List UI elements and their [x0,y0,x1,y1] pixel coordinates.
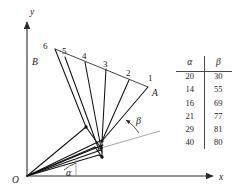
figure-container: x y O A B 1 2 3 4 5 6 α β α β 20 30 [0,0,241,194]
upper-ray-5 [65,57,99,150]
cell-beta: 30 [204,70,232,83]
cell-beta: 81 [204,123,232,136]
table-header-row: α β [176,56,232,70]
ray-label-6: 6 [43,41,48,51]
table-row: 21 77 [176,110,232,123]
cell-beta: 80 [204,136,232,149]
point-label-A: A [151,88,158,98]
origin-ray-3 [27,150,101,176]
cell-beta: 77 [204,110,232,123]
node-dot-apex [100,139,103,142]
table-row: 14 55 [176,83,232,96]
node-dot-upper [84,125,87,128]
cell-alpha: 21 [176,110,204,123]
upper-ray-group [55,49,148,150]
angle-guide-group [64,120,160,176]
upper-ray-1 [102,87,148,141]
origin-ray-6 [27,147,95,176]
table-row: 16 69 [176,97,232,110]
ray-label-5: 5 [62,46,67,56]
cell-alpha: 40 [176,136,204,149]
point-label-B: B [32,57,38,67]
cell-alpha: 29 [176,123,204,136]
table-row: 40 80 [176,136,232,149]
beta-angle-label: β [135,115,141,126]
column-header-beta: β [204,56,232,70]
x-axis-label: x [218,172,224,182]
node-dot-mid [99,146,102,149]
ray-label-4: 4 [82,51,87,61]
upper-ray-2 [102,80,129,141]
ray-label-2: 2 [126,68,131,78]
cell-beta: 55 [204,83,232,96]
y-axis-label: y [29,7,35,17]
cell-alpha: 20 [176,70,204,83]
cell-alpha: 14 [176,83,204,96]
beta-guide-line [101,131,160,148]
table-head: α β [176,56,232,70]
table-body: 20 30 14 55 16 69 21 77 29 81 40 80 [176,70,232,149]
node-dot-lower [100,155,103,158]
table-row: 20 30 [176,70,232,83]
alpha-angle-label: α [66,167,72,178]
cell-alpha: 16 [176,97,204,110]
ray-label-3: 3 [103,59,108,69]
table-row: 29 81 [176,123,232,136]
upper-ray-3 [102,69,106,141]
node-dot-group [84,125,103,158]
column-header-alpha: α [176,56,204,70]
cell-beta: 69 [204,97,232,110]
ray-label-1: 1 [148,73,153,83]
origin-label: O [12,175,19,185]
alpha-beta-table: α β 20 30 14 55 16 69 21 77 29 8 [176,56,232,149]
